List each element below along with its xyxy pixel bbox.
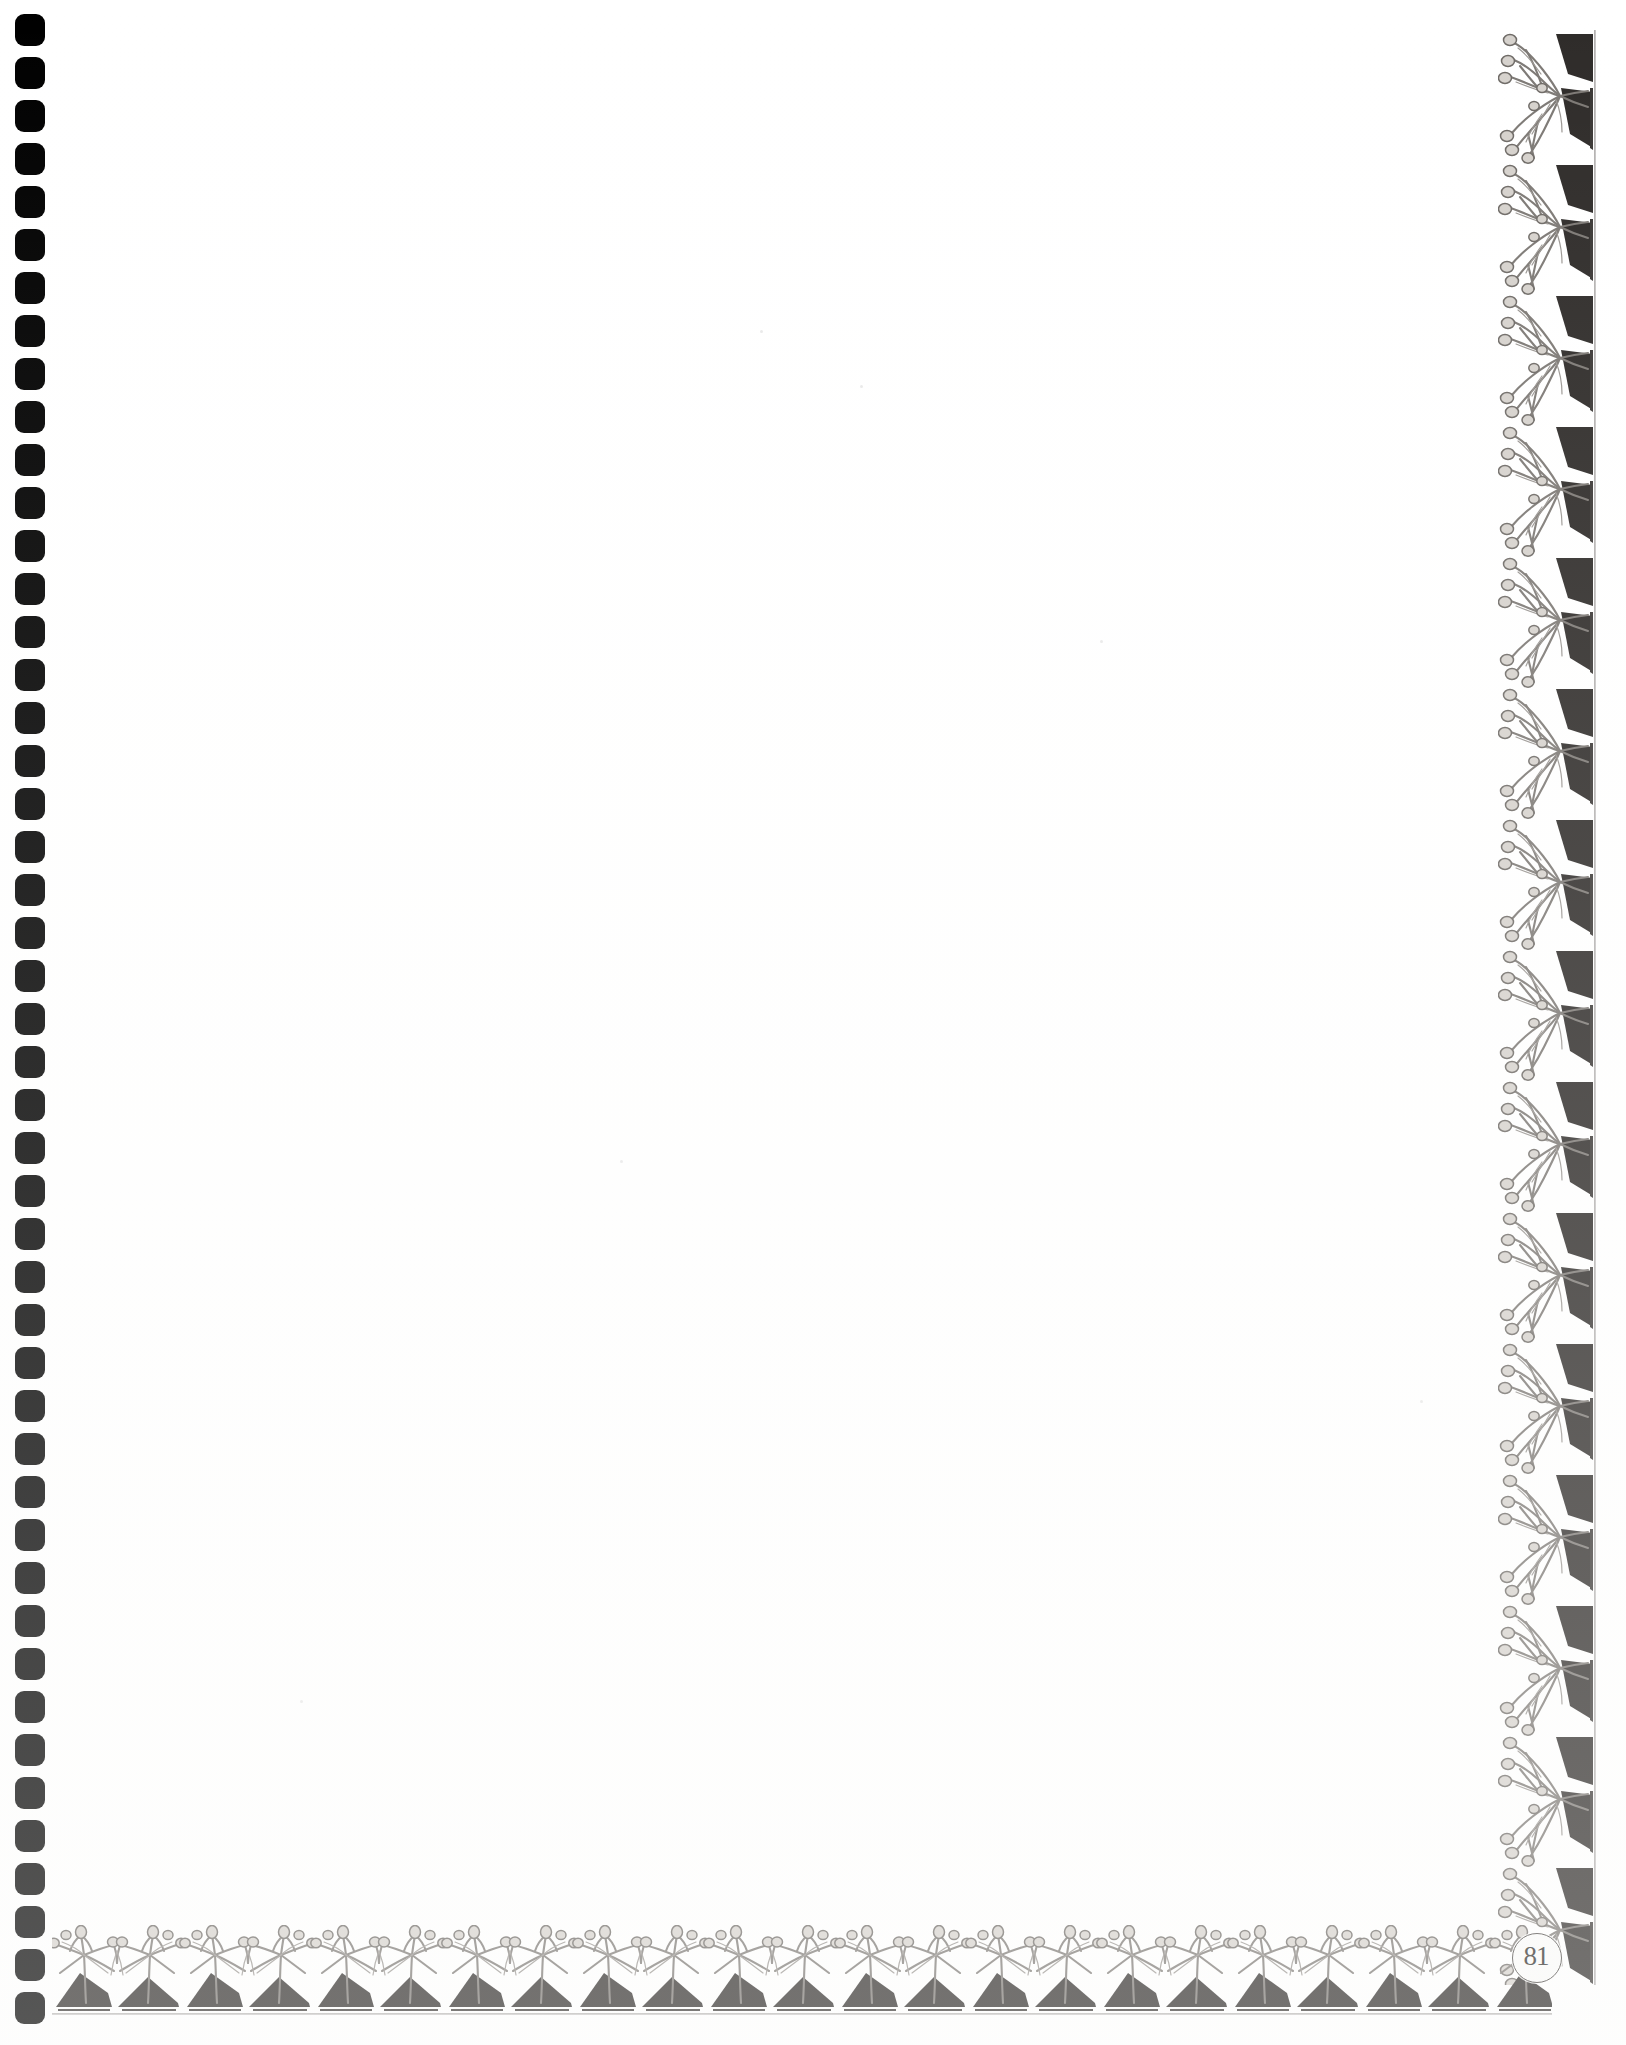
binding-hole — [15, 1691, 45, 1723]
binding-hole — [15, 1949, 45, 1981]
scan-speck — [1420, 1400, 1423, 1403]
binding-hole — [15, 1734, 45, 1766]
binding-hole — [15, 1906, 45, 1938]
binding-hole — [15, 1261, 45, 1293]
binding-hole — [15, 57, 45, 89]
binding-hole — [15, 788, 45, 820]
binding-hole — [15, 960, 45, 992]
binding-hole — [15, 315, 45, 347]
binding-hole — [15, 14, 45, 46]
binding-hole — [15, 100, 45, 132]
binding-hole — [15, 1046, 45, 1078]
blank-page-body — [60, 30, 1490, 1920]
scanned-page: 81 — [0, 0, 1626, 2045]
binding-hole — [15, 1476, 45, 1508]
binding-hole — [15, 1519, 45, 1551]
scan-speck — [1100, 640, 1103, 643]
binding-hole — [15, 401, 45, 433]
binding-hole — [15, 1089, 45, 1121]
binding-hole — [15, 702, 45, 734]
binding-hole — [15, 1433, 45, 1465]
scan-speck — [620, 1160, 623, 1163]
binding-hole — [15, 1863, 45, 1895]
binding-hole — [15, 1304, 45, 1336]
binding-hole — [15, 272, 45, 304]
right-ornamental-border — [1498, 30, 1596, 1985]
binding-hole — [15, 1175, 45, 1207]
binding-hole — [15, 143, 45, 175]
bottom-ornamental-border — [52, 1925, 1552, 2015]
binding-hole — [15, 616, 45, 648]
binding-hole — [15, 917, 45, 949]
binding-hole — [15, 358, 45, 390]
binding-hole — [15, 831, 45, 863]
scan-speck — [860, 385, 863, 388]
right-border-engraving — [1498, 30, 1596, 1985]
binding-hole — [15, 745, 45, 777]
binding-hole — [15, 1003, 45, 1035]
binding-hole — [15, 1562, 45, 1594]
binding-hole — [15, 1992, 45, 2024]
binding-hole — [15, 659, 45, 691]
binding-hole — [15, 444, 45, 476]
binding-hole — [15, 530, 45, 562]
binding-hole — [15, 1605, 45, 1637]
binding-hole — [15, 1820, 45, 1852]
scan-speck — [760, 330, 763, 333]
binding-hole — [15, 1390, 45, 1422]
binding-hole — [15, 1132, 45, 1164]
binding-hole — [15, 1648, 45, 1680]
binding-hole — [15, 1777, 45, 1809]
page-number-label: 81 — [1504, 1925, 1568, 1989]
binding-hole — [15, 487, 45, 519]
binding-hole — [15, 186, 45, 218]
bottom-border-engraving — [52, 1925, 1552, 2015]
binding-hole — [15, 229, 45, 261]
spiral-binding-holes — [0, 0, 58, 2045]
binding-hole — [15, 874, 45, 906]
binding-hole — [15, 573, 45, 605]
binding-hole — [15, 1347, 45, 1379]
scan-speck — [300, 1700, 303, 1703]
binding-hole — [15, 1218, 45, 1250]
page-number-medallion: 81 — [1504, 1925, 1568, 1989]
